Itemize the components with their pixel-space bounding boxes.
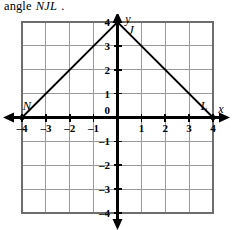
vertex-point-n bbox=[19, 115, 24, 120]
point-label-j: J bbox=[128, 23, 135, 37]
y-tick-label-2: 2 bbox=[105, 64, 111, 76]
x-tick-label--3: –3 bbox=[39, 122, 52, 134]
y-tick-label-4: 4 bbox=[105, 16, 111, 28]
vertex-point-l bbox=[210, 115, 215, 120]
x-tick-label-4: 4 bbox=[210, 122, 216, 134]
x-tick-label--1: –1 bbox=[87, 122, 99, 134]
graph-figure: angle NJL . bbox=[0, 0, 233, 230]
x-tick-label--2: –2 bbox=[63, 122, 76, 134]
y-tick-label-1: 1 bbox=[105, 88, 111, 100]
x-tick-label--4: –4 bbox=[16, 122, 29, 134]
y-tick-label--2: –2 bbox=[98, 159, 111, 171]
caption-text: angle NJL . bbox=[4, 0, 64, 14]
y-tick-label--1: –1 bbox=[98, 135, 110, 147]
y-tick-label--3: –3 bbox=[98, 183, 111, 195]
y-axis-arrow-down bbox=[113, 219, 123, 230]
x-tick-label-2: 2 bbox=[162, 122, 168, 134]
y-tick-label-3: 3 bbox=[105, 40, 111, 52]
point-label-l: L bbox=[200, 99, 208, 113]
origin-label: 0 bbox=[105, 104, 111, 116]
x-axis-arrow-left bbox=[3, 113, 14, 123]
caption-prefix: angle bbox=[4, 0, 32, 13]
y-tick-label--4: –4 bbox=[98, 207, 111, 219]
caption-variable: NJL bbox=[35, 0, 58, 13]
vertex-point-j bbox=[115, 19, 120, 24]
coordinate-plane: –4 –3 –2 –1 1 2 3 4 4 3 2 1 –1 –2 –3 –4 … bbox=[0, 14, 233, 230]
point-label-n: N bbox=[22, 99, 32, 113]
x-axis-label: x bbox=[217, 102, 224, 116]
x-tick-label-1: 1 bbox=[139, 122, 145, 134]
x-tick-label-3: 3 bbox=[186, 122, 192, 134]
caption-suffix: . bbox=[61, 0, 64, 13]
